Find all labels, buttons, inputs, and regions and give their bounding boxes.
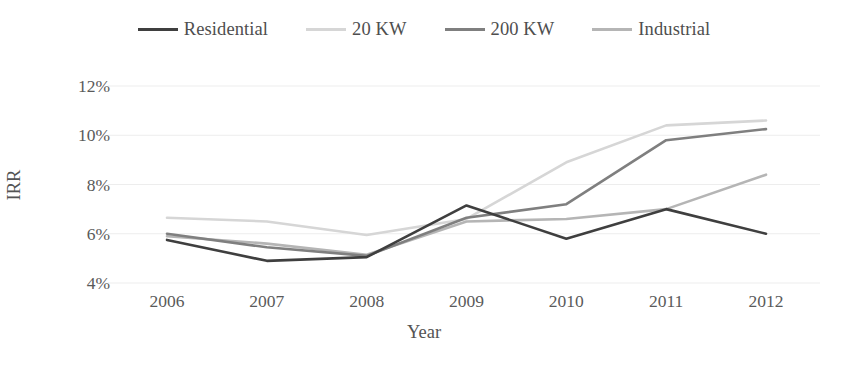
irr-line-chart: Residential 20 KW 200 KW Industrial 12%1… bbox=[0, 0, 848, 368]
x-tick-label-2009: 2009 bbox=[449, 291, 484, 312]
x-axis-title: Year bbox=[0, 322, 848, 343]
x-axis-ticks: 2006200720082009201020112012 bbox=[0, 0, 848, 368]
x-tick-label-2012: 2012 bbox=[749, 291, 784, 312]
x-tick-label-2007: 2007 bbox=[249, 291, 284, 312]
x-tick-label-2008: 2008 bbox=[349, 291, 384, 312]
x-tick-label-2006: 2006 bbox=[150, 291, 185, 312]
x-tick-label-2010: 2010 bbox=[549, 291, 584, 312]
x-tick-label-2011: 2011 bbox=[649, 291, 683, 312]
y-axis-title: IRR bbox=[4, 170, 25, 201]
